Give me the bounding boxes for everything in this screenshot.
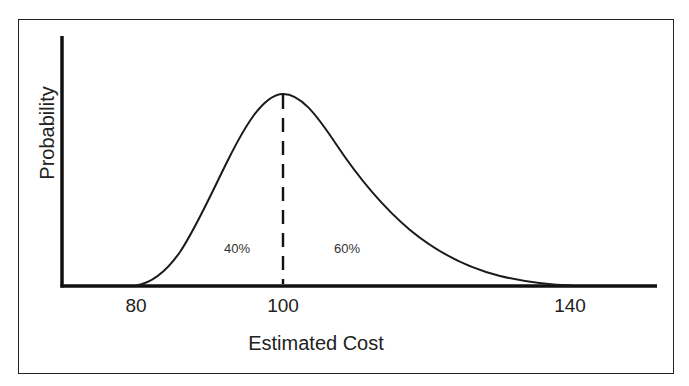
y-axis-label: Probability: [36, 86, 59, 179]
left-percent-label: 40%: [224, 241, 250, 256]
x-tick-100: 100: [267, 295, 299, 317]
chart-plot: [0, 0, 689, 386]
x-axis-label: Estimated Cost: [248, 332, 384, 355]
probability-curve: [136, 94, 572, 286]
x-tick-80: 80: [125, 295, 146, 317]
right-percent-label: 60%: [334, 241, 360, 256]
x-tick-140: 140: [554, 295, 586, 317]
